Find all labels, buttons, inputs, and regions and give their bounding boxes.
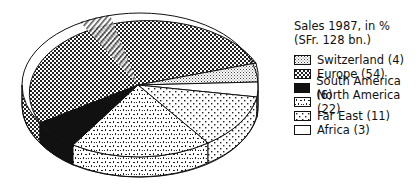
legend-label: Switzerland (4) xyxy=(317,53,404,67)
legend-subtitle: (SFr. 128 bn.) xyxy=(294,33,416,47)
legend-label: Far East (11) xyxy=(317,109,390,123)
chart-legend: Sales 1987, in % (SFr. 128 bn.) Switzerl… xyxy=(294,19,416,137)
swatch-south-america-icon xyxy=(294,83,310,93)
pie-chart xyxy=(0,0,280,186)
legend-item-africa: Africa (3) xyxy=(294,123,416,137)
legend-title: Sales 1987, in % xyxy=(294,19,416,33)
swatch-europe-icon xyxy=(294,69,311,79)
swatch-far-east-icon xyxy=(294,111,311,121)
swatch-switzerland-icon xyxy=(294,55,311,65)
legend-item-switzerland: Switzerland (4) xyxy=(294,53,416,67)
swatch-africa-icon xyxy=(294,125,311,135)
legend-label: Africa (3) xyxy=(317,123,370,137)
swatch-north-america-icon xyxy=(294,97,311,107)
legend-item-north-america: North America (22) xyxy=(294,95,416,109)
